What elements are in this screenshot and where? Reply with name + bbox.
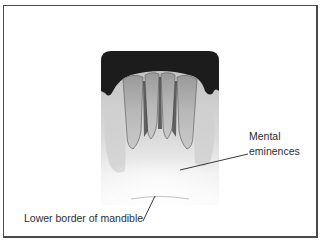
label-eminences: eminences <box>249 146 300 157</box>
radiograph-image <box>101 51 219 205</box>
label-lower-border-of-mandible: Lower border of mandible <box>24 213 143 224</box>
label-mental: Mental <box>249 131 281 142</box>
